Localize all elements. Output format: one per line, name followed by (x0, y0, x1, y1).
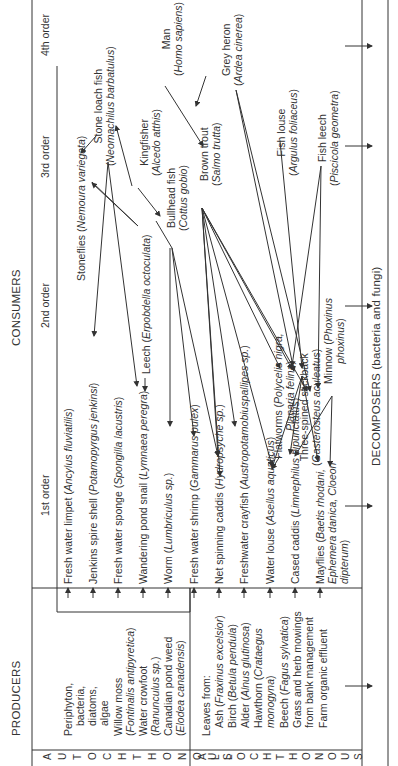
producer-canadian-pond-weed: Canadian pond weed (Elodea canadensis) (162, 637, 186, 736)
consumer-freshwater-crayfish: Freshwater crayfish (Austropotamobiuspal… (238, 345, 250, 584)
consumer-grey-heron: Grey heron(Ardea cinerea) (220, 14, 244, 86)
consumer-net-spinning-caddis: Net spinning caddis (Hydropsyche sp.) (213, 404, 225, 584)
producer-water-crowfoot: Water crowfoot (Ranunculus sp.) (137, 657, 161, 736)
producers-header: PRODUCERS (10, 661, 22, 736)
producer-ash: Ash (Fraxinus excelsior) (213, 615, 225, 728)
producer-alder: Alder (Alnus glutinosa) (239, 622, 251, 728)
consumer-three-spined-stickback: Three-spined stickback(Gasterosteus acul… (298, 349, 322, 466)
consumer-fish-leech: Fish leech(Piscicola geometra) (316, 90, 340, 186)
order-4th-header: 4th order (39, 14, 51, 56)
consumer-bullhead: Bullhead fish(Cottus gobio) (165, 165, 189, 231)
consumers-header: CONSUMERS (10, 269, 22, 346)
leaves-from-label: Leaves from: (200, 675, 212, 736)
consumer-fresh-water-limpet: Fresh water limpet (Ancylus fluviatilis) (62, 408, 74, 584)
producer-birch: Birch (Betula pendula) (226, 624, 238, 728)
decomposers-header: DECOMPOSERS (bacteria and fungi) (370, 267, 382, 466)
consumer-leech: Leech (Erpobdella octoculata) (140, 234, 152, 374)
consumer-stoneflies: Stoneflies (Nemoura variegata) (75, 136, 87, 281)
producer-periphyton: Periphyton, bacteria, diatoms, algae (62, 683, 110, 736)
producer-beech: Beech (Fagus sylvatica) (278, 616, 290, 728)
order-3rd-header: 3rd order (39, 135, 51, 178)
producer-willow-moss: Willow moss (Fontinalis antipyretica) (112, 627, 136, 736)
food-web-diagram: PRODUCERS CONSUMERS 1st order 2nd order … (0, 0, 398, 766)
allochthonous-label: ALLOCHTHONOUS (196, 750, 365, 760)
order-1st-header: 1st order (39, 475, 51, 516)
consumer-minnow: Minnow (Phoxinus phoxinus) (322, 296, 346, 386)
order-2nd-header: 2nd order (39, 283, 51, 328)
producer-hawthorn: Hawthorn (Crataegus monogyna) (252, 598, 276, 728)
producer-farm-effluent: Farm organic effluent (317, 629, 329, 728)
consumer-jenkins-spire-shell: Jenkins spire shell (Potamopyrgus jenkin… (87, 383, 99, 584)
consumer-kingfisher: Kingfisher(Alcedo atthis) (138, 109, 162, 176)
consumer-mayflies: Mayflies (Baetis rhodani, Ephemera danic… (314, 454, 350, 584)
consumer-fresh-water-shrimp: Fresh water shrimp (Gammarus pulex) (188, 404, 200, 584)
producer-grass-mowings: Grass and herb mowings from bank managem… (291, 593, 315, 728)
consumer-wandering-pond-snail: Wandering pond snail (Lymnaea peregra) (137, 391, 149, 584)
consumer-brown-trout: Brown trout(Salmo trutta) (198, 122, 222, 186)
consumer-fish-louse: Fish louse(Argulus foliaceus) (275, 89, 299, 176)
consumer-flatworms: Flatworms (Polycelis nigra, Planaria fel… (272, 326, 296, 466)
consumer-stone-loach: Stone loach fish(Neomachilus barbatulus) (92, 46, 116, 166)
consumer-man: Man(Homo sapiens) (160, 2, 184, 76)
consumer-worm: Worm (Lumbriculus sp.) (162, 473, 174, 584)
consumer-fresh-water-sponge: Fresh water sponge (Spongilla lacustris) (112, 397, 124, 584)
